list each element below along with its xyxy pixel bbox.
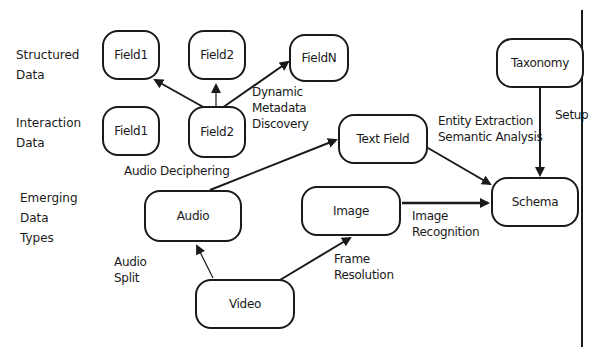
row-label-emerging: Emerging Data Types [20, 188, 78, 248]
node-video[interactable]: Video [195, 279, 295, 329]
node-taxonomy[interactable]: Taxonomy [496, 38, 584, 88]
edge-label-image-recognition: Image Recognition [412, 208, 479, 240]
edge-label-setup: Setup [555, 107, 588, 123]
edge-textfield-to-schema [428, 148, 490, 184]
node-audio[interactable]: Audio [144, 190, 242, 242]
node-image[interactable]: Image [301, 186, 401, 236]
edge-label-audio-split: Audio Split [114, 254, 147, 286]
node-structured-fieldn[interactable]: FieldN [289, 34, 349, 82]
edge-label-audio-deciphering: Audio Deciphering [124, 163, 229, 179]
node-structured-field2[interactable]: Field2 [188, 30, 246, 80]
node-structured-field1[interactable]: Field1 [102, 30, 160, 80]
node-text-field[interactable]: Text Field [338, 114, 428, 164]
row-label-structured: Structured Data [16, 45, 79, 85]
edge-label-dynamic-metadata: Dynamic Metadata Discovery [252, 84, 309, 132]
edge-label-entity-extraction: Entity Extraction Semantic Analysis [438, 113, 542, 145]
edge-field2-to-field1 [155, 80, 205, 108]
node-interaction-field2[interactable]: Field2 [188, 106, 246, 158]
diagram-canvas: Structured Data Interaction Data Emergin… [0, 0, 597, 347]
edge-label-frame-resolution: Frame Resolution [334, 251, 394, 283]
row-label-interaction: Interaction Data [16, 113, 81, 153]
edge-video-to-audio [197, 246, 213, 278]
node-schema[interactable]: Schema [491, 177, 579, 227]
node-interaction-field1[interactable]: Field1 [102, 106, 160, 156]
